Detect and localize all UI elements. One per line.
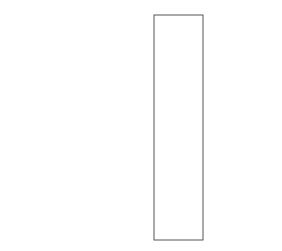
memory-block <box>154 15 203 240</box>
memory-diagram <box>0 0 282 251</box>
